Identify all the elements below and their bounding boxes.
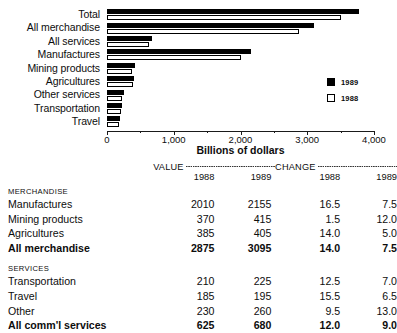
table-row: Manufactures2010215516.57.5 <box>0 198 397 213</box>
cell-change-1988: 14.0 <box>283 227 340 239</box>
x-tick-minor <box>140 131 141 134</box>
table-row: Agricultures38540514.05.0 <box>0 227 397 242</box>
legend-item-1988: 1988 <box>327 92 359 104</box>
bar-group <box>107 115 374 128</box>
legend-item-1989: 1989 <box>327 76 359 88</box>
table-body: MERCHANDISEManufactures2010215516.57.5Mi… <box>0 186 397 333</box>
bar-1989 <box>107 116 120 121</box>
category-axis-labels: TotalAll merchandiseAll servicesManufact… <box>0 8 103 129</box>
table-group-header-row: VALUE CHANGE <box>0 160 397 172</box>
section-title: MERCHANDISE <box>0 186 397 198</box>
bar-group <box>107 21 374 34</box>
cell-change-1989: 9.0 <box>340 319 397 331</box>
group-header-change-rule <box>318 166 397 167</box>
bar-1988 <box>107 55 241 60</box>
group-header-value-rule <box>186 166 275 167</box>
category-label: Mining products <box>0 62 103 75</box>
cell-value-1989: 195 <box>214 290 271 302</box>
bar-1989 <box>107 63 135 68</box>
section-title: SERVICES <box>0 263 397 275</box>
x-tick-minor <box>207 131 208 134</box>
bar-1988 <box>107 15 341 20</box>
bar-1988 <box>107 69 132 74</box>
category-label: Manufactures <box>0 48 103 61</box>
x-axis-title: Billions of dollars <box>107 144 374 156</box>
bar-1988 <box>107 42 149 47</box>
x-tick-minor <box>341 131 342 134</box>
cell-value-1989: 2155 <box>214 198 271 210</box>
bar-1989 <box>107 103 122 108</box>
bar-1988 <box>107 96 122 101</box>
bar-group <box>107 8 374 21</box>
cell-value-1988: 185 <box>158 290 215 302</box>
category-label: All merchandise <box>0 21 103 34</box>
bar-group <box>107 48 374 61</box>
bar-chart: TotalAll merchandiseAll servicesManufact… <box>0 0 397 152</box>
cell-value-1988: 385 <box>158 227 215 239</box>
group-header-change-label: CHANGE <box>275 162 316 172</box>
row-label: Other <box>0 305 158 317</box>
category-label: Other services <box>0 88 103 101</box>
bar-1989 <box>107 23 314 28</box>
table-row: Transportation21022512.57.0 <box>0 275 397 290</box>
cell-value-1989: 225 <box>214 275 271 287</box>
row-label: Manufactures <box>0 198 158 210</box>
table-row: All merchandise2875309514.07.5 <box>0 242 397 257</box>
bar-1988 <box>107 82 133 87</box>
group-header-value-label: VALUE <box>153 162 183 172</box>
subheader-value-1989: 1989 <box>214 172 271 182</box>
cell-value-1988: 370 <box>158 213 215 225</box>
cell-change-1989: 5.0 <box>340 227 397 239</box>
cell-value-1989: 260 <box>214 305 271 317</box>
cell-change-1989: 12.0 <box>340 213 397 225</box>
cell-value-1989: 3095 <box>214 242 271 254</box>
bar-1989 <box>107 90 124 95</box>
cell-change-1989: 7.5 <box>340 198 397 210</box>
cell-value-1988: 210 <box>158 275 215 287</box>
x-tick-minor <box>274 131 275 134</box>
cell-change-1989: 7.5 <box>340 242 397 254</box>
table-row: Other2302609.513.0 <box>0 305 397 320</box>
cell-change-1989: 6.5 <box>340 290 397 302</box>
cell-value-1989: 405 <box>214 227 271 239</box>
bar-group <box>107 62 374 75</box>
row-label: All comm'l services <box>0 319 158 331</box>
cell-change-1988: 16.5 <box>283 198 340 210</box>
cell-change-1988: 15.5 <box>283 290 340 302</box>
cell-value-1989: 680 <box>214 319 271 331</box>
cell-change-1988: 1.5 <box>283 213 340 225</box>
row-label: Mining products <box>0 213 158 225</box>
legend-swatch-open-icon <box>327 94 335 102</box>
section-spacer <box>0 256 397 263</box>
bar-1988 <box>107 122 119 127</box>
table-subheader-row: 1988 1989 1988 1989 <box>0 172 397 186</box>
table-row: Travel18519515.56.5 <box>0 290 397 305</box>
cell-change-1988: 9.5 <box>283 305 340 317</box>
bar-groups <box>107 8 374 129</box>
cell-value-1988: 2010 <box>158 198 215 210</box>
group-header-change: CHANGE <box>275 162 397 172</box>
category-label: Travel <box>0 115 103 128</box>
legend-swatch-filled-icon <box>327 78 335 86</box>
bar-group <box>107 35 374 48</box>
subheader-change-1989: 1989 <box>340 172 397 182</box>
category-label: Total <box>0 8 103 21</box>
cell-change-1989: 13.0 <box>340 305 397 317</box>
cell-value-1989: 415 <box>214 213 271 225</box>
cell-change-1989: 7.0 <box>340 275 397 287</box>
cell-change-1988: 12.0 <box>283 319 340 331</box>
table-row: All comm'l services62568012.09.0 <box>0 319 397 333</box>
data-table: VALUE CHANGE 1988 1989 1988 1989 MERCHAN… <box>0 160 397 333</box>
row-label: Travel <box>0 290 158 302</box>
bar-1989 <box>107 49 251 54</box>
group-header-value: VALUE <box>153 162 275 172</box>
cell-change-1988: 12.5 <box>283 275 340 287</box>
cell-value-1988: 2875 <box>158 242 215 254</box>
bar-1988 <box>107 29 299 34</box>
category-label: All services <box>0 35 103 48</box>
category-label: Transportation <box>0 102 103 115</box>
cell-change-1988: 14.0 <box>283 242 340 254</box>
bar-1989 <box>107 9 359 14</box>
bar-1989 <box>107 36 152 41</box>
